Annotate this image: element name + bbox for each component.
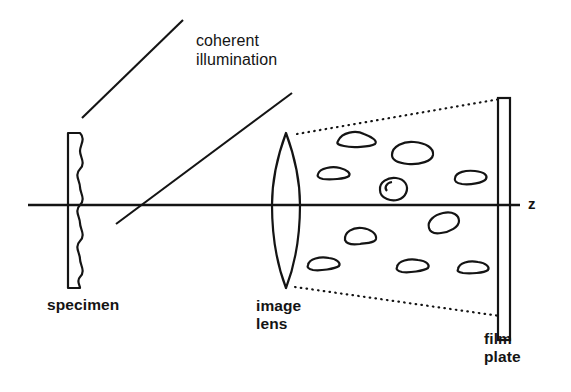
speckle-blob bbox=[337, 132, 375, 147]
speckle-blob bbox=[397, 259, 429, 272]
speckle-blob bbox=[380, 178, 407, 200]
cone-line-lower bbox=[295, 287, 500, 316]
speckle-blob bbox=[308, 257, 340, 270]
speckle-blob bbox=[318, 167, 350, 179]
film-plate-shape bbox=[498, 98, 510, 340]
specimen-shape bbox=[68, 133, 83, 288]
speckle-blob bbox=[392, 142, 433, 164]
coherent-illumination-line1: coherent bbox=[196, 32, 259, 49]
image-lens-label: imagelens bbox=[256, 297, 301, 334]
coherent-illumination-line2: illumination bbox=[196, 51, 277, 68]
image-lens-shape bbox=[272, 133, 300, 288]
image-lens-line1: image bbox=[256, 297, 301, 314]
speckle-blob bbox=[455, 171, 487, 185]
figure-canvas: coherentillumination specimen imagelens … bbox=[0, 0, 571, 392]
speckle-blob bbox=[345, 228, 376, 245]
speckle-blob bbox=[429, 212, 459, 233]
film-plate-line2: plate bbox=[484, 348, 521, 365]
speckle-blob bbox=[458, 261, 489, 273]
image-lens-line2: lens bbox=[256, 315, 287, 332]
film-plate-line1: film bbox=[484, 330, 512, 347]
speckle-blobs bbox=[308, 132, 489, 273]
imaging-cone-dotted-lines bbox=[295, 99, 500, 316]
z-axis-label: z bbox=[528, 195, 536, 213]
specimen-label: specimen bbox=[47, 296, 119, 314]
cone-line-upper bbox=[297, 99, 500, 134]
illumination-ray-upper bbox=[82, 20, 183, 118]
coherent-illumination-label: coherentillumination bbox=[196, 32, 277, 70]
film-plate-label: filmplate bbox=[484, 330, 521, 367]
